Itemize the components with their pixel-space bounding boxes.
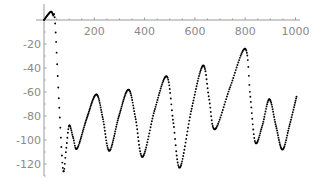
x-tick-label: 1000 [282, 25, 310, 38]
axes: 2004006008001000 -20-40-60-80-100-120 [16, 4, 309, 176]
x-tick-label: 200 [84, 25, 105, 38]
x-tick-label: 800 [235, 25, 256, 38]
y-tick-label: -20 [23, 38, 41, 51]
y-ticks: -20-40-60-80-100-120 [16, 32, 46, 176]
y-tick-label: -120 [16, 158, 41, 171]
y-tick-label: -80 [23, 110, 41, 123]
x-ticks: 2004006008001000 [57, 18, 310, 39]
line-chart: 2004006008001000 -20-40-60-80-100-120 [0, 0, 330, 181]
y-tick-label: -100 [16, 134, 41, 147]
x-tick-label: 400 [134, 25, 155, 38]
plot-series [43, 11, 297, 173]
y-tick-label: -40 [23, 62, 41, 75]
y-tick-label: -60 [23, 86, 41, 99]
x-tick-label: 600 [184, 25, 205, 38]
series-curve [43, 11, 297, 173]
